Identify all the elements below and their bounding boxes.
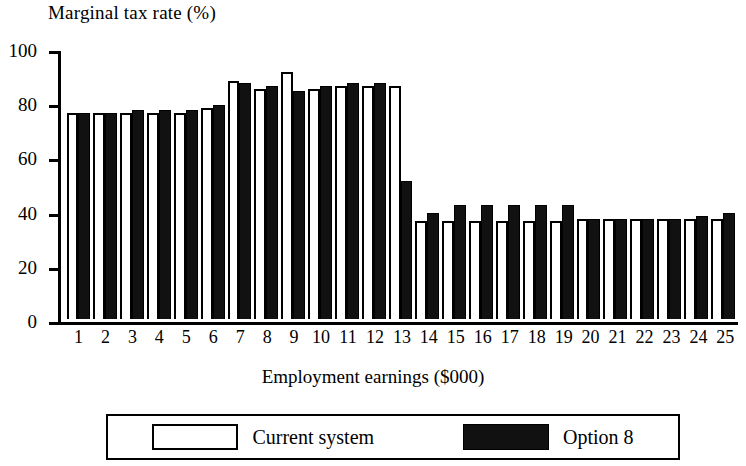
bar-group — [226, 51, 253, 319]
x-tick-label: 19 — [550, 328, 577, 346]
x-tick-label: 3 — [119, 328, 146, 346]
bar-group — [521, 51, 548, 319]
bar-group — [656, 51, 683, 319]
y-axis-title: Marginal tax rate (%) — [48, 2, 216, 24]
bar-current-system — [254, 89, 266, 319]
x-tick-label: 18 — [523, 328, 550, 346]
bar-current-system — [93, 113, 105, 319]
bar-group — [172, 51, 199, 319]
bar-group — [629, 51, 656, 319]
y-tick-60: 60 — [49, 159, 61, 162]
y-tick-label-60: 60 — [18, 150, 37, 169]
bar-option-8 — [78, 113, 90, 319]
x-tick-label: 25 — [712, 328, 739, 346]
x-tick-label: 9 — [281, 328, 308, 346]
bar-option-8 — [320, 86, 332, 319]
bar-group — [92, 51, 119, 319]
x-axis-tick-labels: 1234567891011121314151617181920212223242… — [61, 328, 739, 346]
y-tick-label-20: 20 — [18, 258, 37, 277]
bar-group — [414, 51, 441, 319]
bar-group — [360, 51, 387, 319]
bar-group — [387, 51, 414, 319]
legend-label-current-system: Current system — [252, 426, 374, 449]
bar-current-system — [469, 221, 481, 319]
x-tick-label: 17 — [496, 328, 523, 346]
bar-group — [253, 51, 280, 319]
bar-group — [548, 51, 575, 319]
bar-option-8 — [132, 110, 144, 319]
bar-option-8 — [481, 205, 493, 319]
bar-current-system — [308, 89, 320, 319]
x-axis-line — [58, 322, 738, 325]
bar-option-8 — [347, 83, 359, 319]
bar-option-8 — [454, 205, 466, 319]
bar-group — [333, 51, 360, 319]
x-tick-label: 6 — [200, 328, 227, 346]
chart-figure: Marginal tax rate (%) 020406080100 12345… — [0, 0, 746, 466]
bar-groups — [61, 51, 736, 319]
bar-current-system — [523, 221, 535, 319]
bar-group — [709, 51, 736, 319]
bar-option-8 — [374, 83, 386, 319]
bar-group — [602, 51, 629, 319]
bar-option-8 — [105, 113, 117, 319]
x-axis-title: Employment earnings ($000) — [0, 366, 746, 388]
bar-option-8 — [588, 219, 600, 319]
bar-option-8 — [159, 110, 171, 319]
legend-entry-current-system: Current system — [152, 424, 374, 450]
bar-current-system — [362, 86, 374, 319]
bar-option-8 — [642, 219, 654, 319]
x-tick-label: 16 — [469, 328, 496, 346]
x-tick-label: 14 — [415, 328, 442, 346]
bar-option-8 — [401, 181, 413, 319]
y-tick-label-80: 80 — [18, 95, 37, 114]
bar-group — [280, 51, 307, 319]
bar-group — [682, 51, 709, 319]
bar-current-system — [577, 219, 589, 319]
bar-option-8 — [266, 86, 278, 319]
y-tick-label-100: 100 — [9, 41, 38, 60]
bar-option-8 — [213, 105, 225, 319]
bar-current-system — [657, 219, 669, 319]
bar-group — [441, 51, 468, 319]
plot-area: 020406080100 — [58, 51, 736, 322]
x-tick-label: 4 — [146, 328, 173, 346]
y-tick-20: 20 — [49, 268, 61, 271]
bar-current-system — [147, 113, 159, 319]
bar-option-8 — [508, 205, 520, 319]
x-tick-label: 22 — [631, 328, 658, 346]
bar-option-8 — [669, 219, 681, 319]
bar-current-system — [603, 219, 615, 319]
y-tick-100: 100 — [49, 51, 61, 54]
bar-current-system — [120, 113, 132, 319]
legend-swatch-current-system — [152, 424, 238, 450]
y-tick-label-40: 40 — [18, 204, 37, 223]
bar-group — [495, 51, 522, 319]
bar-current-system — [335, 86, 347, 319]
bar-current-system — [174, 113, 186, 319]
bar-group — [199, 51, 226, 319]
bar-group — [65, 51, 92, 319]
bar-option-8 — [562, 205, 574, 319]
bar-current-system — [67, 113, 79, 319]
bar-current-system — [281, 72, 293, 319]
bar-option-8 — [696, 216, 708, 319]
bar-option-8 — [535, 205, 547, 319]
legend-swatch-option-8 — [463, 424, 549, 450]
bar-current-system — [415, 221, 427, 319]
bar-group — [307, 51, 334, 319]
x-tick-label: 24 — [685, 328, 712, 346]
x-tick-label: 23 — [658, 328, 685, 346]
x-tick-label: 7 — [227, 328, 254, 346]
bar-current-system — [550, 221, 562, 319]
x-tick-label: 8 — [254, 328, 281, 346]
bar-current-system — [711, 219, 723, 319]
y-tick-40: 40 — [49, 214, 61, 217]
y-tick-80: 80 — [49, 105, 61, 108]
legend-label-option-8: Option 8 — [563, 426, 634, 449]
x-tick-label: 21 — [604, 328, 631, 346]
bar-current-system — [442, 221, 454, 319]
x-tick-label: 5 — [173, 328, 200, 346]
x-tick-label: 10 — [308, 328, 335, 346]
x-tick-label: 11 — [335, 328, 362, 346]
